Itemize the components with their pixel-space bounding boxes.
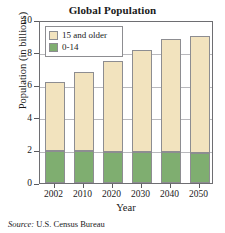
page-title: Global Population: [0, 4, 225, 16]
x-tick-mark: [54, 184, 55, 188]
bar-segment-older-2020: [103, 61, 123, 152]
gridline: [40, 119, 212, 120]
y-tick-label: 10: [2, 16, 32, 26]
source-text: U.S. Census Bureau: [36, 219, 104, 229]
y-tick-mark: [34, 151, 39, 152]
legend-label-older: 15 and older: [62, 31, 107, 40]
y-tick-label: 8: [2, 49, 32, 59]
bar-segment-older-2010: [74, 72, 94, 151]
legend-item-young: 0-14: [49, 42, 119, 53]
y-tick-mark: [34, 184, 39, 185]
legend-label-young: 0-14: [62, 43, 79, 52]
x-tick-label-2050: 2050: [182, 189, 216, 200]
bar-segment-older-2030: [132, 50, 152, 152]
bar-segment-older-2002: [45, 82, 65, 151]
x-axis-title: Year: [39, 202, 213, 213]
bar-segment-young-2002: [45, 151, 65, 183]
x-tick-mark: [83, 184, 84, 188]
gridline: [40, 152, 212, 153]
x-tick-mark: [199, 184, 200, 188]
gridline: [40, 87, 212, 88]
y-tick-label: 4: [2, 114, 32, 124]
bar-segment-older-2050: [190, 36, 210, 153]
y-tick-mark: [34, 21, 39, 22]
source-note: Source: U.S. Census Bureau: [8, 219, 105, 229]
bar-2030: [132, 20, 152, 183]
chart-legend: 15 and older 0-14: [45, 26, 123, 57]
bar-segment-young-2040: [161, 152, 181, 183]
bar-2050: [190, 20, 210, 183]
source-label: Source:: [8, 219, 34, 229]
y-tick-mark: [34, 86, 39, 87]
x-tick-mark: [112, 184, 113, 188]
bar-segment-older-2040: [161, 39, 181, 152]
y-tick-mark: [34, 53, 39, 54]
bar-2040: [161, 20, 181, 183]
y-tick-mark: [34, 118, 39, 119]
x-tick-mark: [141, 184, 142, 188]
legend-item-older: 15 and older: [49, 30, 119, 41]
y-tick-label: 0: [2, 179, 32, 189]
legend-swatch-icon-young: [49, 43, 58, 52]
y-tick-label: 6: [2, 81, 32, 91]
bar-segment-young-2010: [74, 151, 94, 183]
bar-segment-young-2050: [190, 153, 210, 183]
y-tick-label: 2: [2, 146, 32, 156]
bar-segment-young-2020: [103, 152, 123, 183]
bar-segment-young-2030: [132, 152, 152, 183]
legend-swatch-icon-older: [49, 31, 58, 40]
x-tick-mark: [170, 184, 171, 188]
